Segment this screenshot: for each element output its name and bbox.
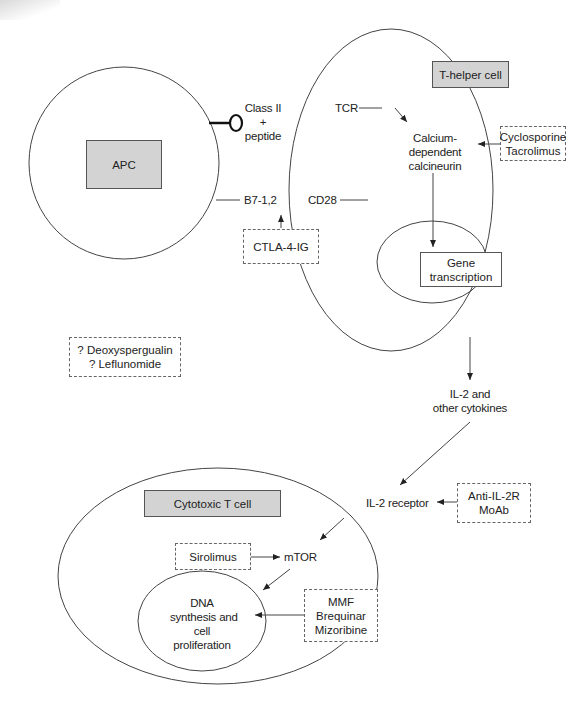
leflunomide-text: ? Leflunomide — [89, 357, 161, 371]
il2-cytokines-label: IL-2 and other cytokines — [432, 387, 508, 415]
mmf-text: MMF — [328, 595, 354, 609]
cyclosporine-text: Cyclosporine — [500, 130, 566, 144]
class-ii-label: Class II + peptide — [244, 101, 282, 143]
tacrolimus-text: Tacrolimus — [506, 144, 561, 158]
t-helper-label-box: T-helper cell — [432, 61, 509, 88]
moab-text: MoAb — [479, 503, 509, 517]
cyclosporine-drug-box: Cyclosporine Tacrolimus — [500, 126, 566, 161]
mtor-label: mTOR — [284, 550, 317, 564]
dna-line1: DNA — [170, 596, 234, 610]
tcr-label: TCR — [335, 101, 358, 115]
sirolimus-drug-box: Sirolimus — [175, 543, 251, 570]
dna-line3: cell — [170, 624, 234, 638]
cytotoxic-label-box: Cytotoxic T cell — [144, 490, 281, 517]
dna-synthesis-label: DNA synthesis and cell proliferation — [170, 596, 234, 652]
ctla4-text: CTLA-4-IG — [253, 240, 309, 254]
sirolimus-text: Sirolimus — [189, 550, 236, 564]
class-ii-text: Class II — [244, 101, 282, 115]
cd28-label: CD28 — [308, 193, 337, 207]
peptide-text: peptide — [244, 129, 282, 143]
plus-text: + — [244, 115, 282, 129]
il2-line2: other cytokines — [432, 401, 508, 415]
gene-text: Gene — [447, 256, 475, 270]
calcineurin-line2: dependent — [405, 145, 465, 159]
deoxyspergualin-drug-box: ? Deoxyspergualin ? Leflunomide — [69, 337, 181, 377]
dna-line2: synthesis and — [170, 610, 234, 624]
brequinar-text: Brequinar — [316, 609, 366, 623]
mmf-drug-box: MMF Brequinar Mizoribine — [304, 589, 378, 642]
ctla4-drug-box: CTLA-4-IG — [243, 229, 319, 264]
class-ii-loop-icon — [230, 115, 242, 131]
dna-line4: proliferation — [170, 638, 234, 652]
deoxyspergualin-text: ? Deoxyspergualin — [77, 343, 172, 357]
anti-il2r-text: Anti-IL-2R — [468, 489, 520, 503]
gene-transcription-box: Gene transcription — [420, 252, 502, 287]
mizoribine-text: Mizoribine — [315, 623, 367, 637]
calcineurin-line1: Calcium- — [405, 131, 465, 145]
calcineurin-label: Calcium- dependent calcineurin — [405, 131, 465, 173]
anti-il2r-drug-box: Anti-IL-2R MoAb — [457, 483, 531, 523]
apc-label-box: APC — [86, 140, 162, 189]
il2-receptor-label: IL-2 receptor — [366, 496, 429, 510]
il2-line1: IL-2 and — [432, 387, 508, 401]
transcription-text: transcription — [430, 270, 493, 284]
b7-label: B7-1,2 — [244, 193, 277, 207]
calcineurin-line3: calcineurin — [405, 159, 465, 173]
